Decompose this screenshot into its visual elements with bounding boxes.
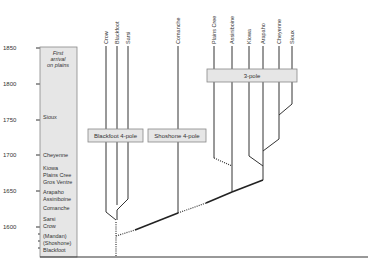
leaf-label-sarsi: Sarsi (125, 31, 131, 44)
leaf-label-arapaho: Arapaho (260, 23, 266, 44)
tick-label-1800: 1800 (3, 81, 17, 87)
shoshone-4-pole-label: Shoshone 4-pole (154, 133, 200, 139)
arrival-comanche: Comanche (43, 205, 70, 211)
leaf-label-cheyenne: Cheyenne (276, 19, 282, 44)
leaf-label-sioux: Sioux (289, 30, 295, 44)
arrival-arapaho: Arapaho (43, 189, 64, 195)
tipi-phylogeny-diagram: 1850 1800 1750 1700 1650 1600 First arri… (0, 0, 368, 270)
tick-label-1650: 1650 (3, 188, 17, 194)
arrival-crow: Crow (43, 223, 56, 229)
tick-label-1700: 1700 (3, 152, 17, 158)
leaf-label-comanche: Comanche (175, 17, 181, 44)
blackfoot-4-pole-label: Blackfoot 4-pole (94, 133, 138, 139)
leaf-labels: Crow Blackfoot Sarsi Comanche Plains Cre… (103, 16, 295, 44)
arrival-kiowa: Kiowa (43, 165, 59, 171)
arrival-sarsi: Sarsi (43, 216, 56, 222)
3-pole-label: 3-pole (244, 73, 261, 79)
leaf-label-blackfoot: Blackfoot (114, 21, 120, 44)
arrival-assiniboine: Assiniboine (43, 196, 71, 202)
shoshone-4-pole-box: Shoshone 4-pole (148, 129, 206, 142)
arrival-shoshone: (Shoshone) (43, 240, 72, 246)
arrival-blackfoot: Blackfoot (43, 247, 66, 253)
leaf-label-plains-cree: Plains Cree (211, 16, 217, 44)
tick-label-1850: 1850 (3, 45, 17, 51)
arrival-plains-cree: Plains Cree (43, 172, 71, 178)
column-title-line-3: on plains (47, 62, 69, 68)
arrival-sioux: Sioux (43, 114, 57, 120)
blackfoot-4-pole-box: Blackfoot 4-pole (88, 129, 143, 142)
arrival-mandan: (Mandan) (43, 233, 67, 239)
tick-label-1600: 1600 (3, 224, 17, 230)
leaf-label-kiowa: Kiowa (246, 28, 252, 44)
arrival-gros-ventre: Gros Ventre (43, 179, 72, 185)
first-arrival-column: First arrival on plains Sioux Cheyenne K… (40, 47, 77, 257)
3-pole-box: 3-pole (207, 69, 297, 82)
arrival-cheyenne: Cheyenne (43, 152, 68, 158)
tick-label-1750: 1750 (3, 117, 17, 123)
leaf-label-assiniboine: Assiniboine (229, 16, 235, 44)
time-axis: 1850 1800 1750 1700 1650 1600 (3, 45, 40, 248)
leaf-label-crow: Crow (103, 31, 109, 44)
